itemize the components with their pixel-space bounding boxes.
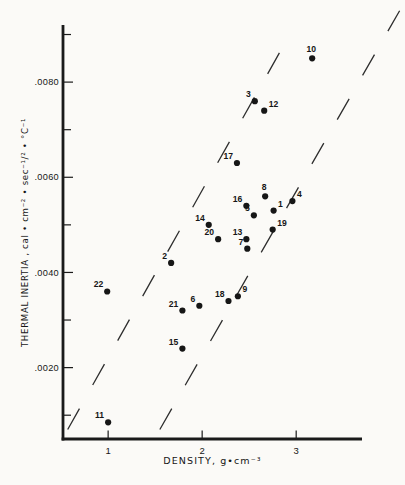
- data-point-21: [179, 307, 185, 313]
- axis-ticks: [64, 35, 296, 438]
- data-point-label-14: 14: [195, 213, 205, 223]
- data-point-5: [251, 212, 257, 218]
- x-axis-title: DENSITY, g•cm⁻³: [63, 455, 362, 466]
- data-point-label-13: 13: [233, 227, 243, 237]
- data-point-16: [243, 203, 249, 209]
- data-point-label-4: 4: [297, 189, 302, 199]
- data-point-1: [271, 207, 277, 213]
- data-point-6: [196, 303, 202, 309]
- data-point-label-2: 2: [162, 251, 167, 261]
- data-point-12: [261, 108, 267, 114]
- y-tick-label: .0020: [35, 363, 60, 373]
- data-point-11: [105, 419, 111, 425]
- data-point-label-15: 15: [169, 337, 179, 347]
- data-point-label-12: 12: [269, 99, 279, 109]
- dashed-line-1: [68, 30, 293, 430]
- data-point-label-19: 19: [277, 218, 287, 228]
- data-point-7: [244, 246, 250, 252]
- data-point-label-17: 17: [223, 151, 233, 161]
- data-point-15: [179, 345, 185, 351]
- data-point-label-11: 11: [95, 410, 104, 420]
- data-point-3: [252, 98, 258, 104]
- data-point-20: [215, 236, 221, 242]
- data-point-22: [104, 288, 110, 294]
- data-point-8: [262, 193, 268, 199]
- data-points: 12345678910111213141516171819202122: [94, 44, 317, 426]
- data-point-label-6: 6: [191, 294, 196, 304]
- thermal-inertia-vs-density-chart: .0080.0060.0040.0020123 1234567891011121…: [0, 0, 405, 485]
- y-tick-label: .0060: [35, 172, 60, 182]
- data-point-18: [225, 298, 231, 304]
- data-point-4: [289, 198, 295, 204]
- data-point-label-7: 7: [239, 237, 244, 247]
- y-axis-title: THERMAL INERTIA , cal • cm⁻² • sec⁻¹/² •…: [20, 18, 33, 448]
- scatter-figure: .0080.0060.0040.0020123 1234567891011121…: [0, 0, 405, 485]
- tick-labels: .0080.0060.0040.0020123: [35, 77, 299, 456]
- y-tick-label: .0080: [35, 77, 60, 87]
- data-point-label-3: 3: [246, 89, 251, 99]
- data-point-10: [309, 55, 315, 61]
- data-point-label-21: 21: [169, 299, 179, 309]
- data-point-label-8: 8: [262, 182, 267, 192]
- data-point-label-10: 10: [306, 44, 316, 54]
- data-point-9: [235, 293, 241, 299]
- dashed-reference-lines: [68, 11, 400, 430]
- data-point-label-20: 20: [205, 227, 215, 237]
- data-point-label-1: 1: [278, 199, 283, 209]
- data-point-2: [168, 260, 174, 266]
- data-point-19: [270, 227, 276, 233]
- data-point-13: [243, 236, 249, 242]
- data-point-label-16: 16: [233, 194, 243, 204]
- data-point-17: [234, 160, 240, 166]
- data-point-label-9: 9: [242, 284, 247, 294]
- data-point-label-18: 18: [215, 289, 225, 299]
- data-point-label-22: 22: [94, 279, 104, 289]
- y-tick-label: .0040: [35, 268, 60, 278]
